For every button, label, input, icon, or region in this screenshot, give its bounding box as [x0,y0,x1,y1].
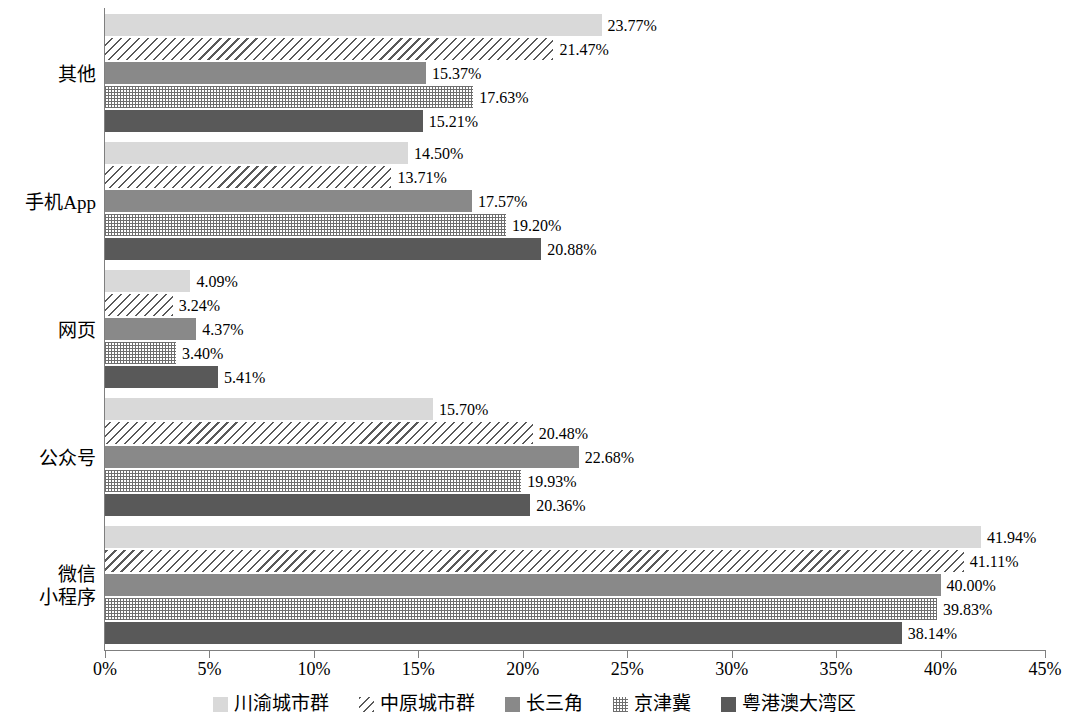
bar-value-label: 38.14% [908,623,957,644]
bar-row: 3.24% [105,294,1045,316]
x-axis-tick-label: 20% [483,657,563,681]
x-axis-tick-label: 0% [65,657,145,681]
bar-row: 23.77% [105,14,1045,36]
bar-row: 20.36% [105,494,1045,516]
bar-value-label: 5.41% [224,367,265,388]
bar-row: 38.14% [105,622,1045,644]
bar [105,318,196,340]
bar-row: 17.63% [105,86,1045,108]
bar-value-label: 20.48% [539,423,588,444]
x-axis-tick-label: 5% [169,657,249,681]
legend-item-label: 长三角 [526,693,583,715]
legend-swatch-icon [213,697,228,712]
bar [105,366,218,388]
bar-group: 14.50%13.71%17.57%19.20%20.88% [105,142,1045,262]
legend-item[interactable]: 京津冀 [613,693,691,715]
bar-value-label: 17.57% [478,191,527,212]
bar [105,190,472,212]
bar-value-label: 3.40% [182,343,223,364]
legend-swatch-icon [613,697,628,712]
bar-row: 41.94% [105,526,1045,548]
bar-group: 4.09%3.24%4.37%3.40%5.41% [105,270,1045,390]
bar-value-label: 40.00% [947,575,996,596]
bar-value-label: 20.36% [536,495,585,516]
x-axis-tick-label: 30% [692,657,772,681]
bar-row: 22.68% [105,446,1045,468]
x-axis-tick-label: 35% [796,657,876,681]
bar [105,110,423,132]
legend-item[interactable]: 长三角 [505,693,583,715]
bar [105,214,506,236]
bar-row: 4.09% [105,270,1045,292]
bar-row: 15.21% [105,110,1045,132]
legend-item-label: 中原城市群 [380,693,475,715]
bar-row: 20.48% [105,422,1045,444]
bar-value-label: 19.93% [527,471,576,492]
legend-item-label: 川渝城市群 [234,693,329,715]
legend-item[interactable]: 中原城市群 [359,693,475,715]
y-axis-category-label: 手机App [0,191,96,214]
bar-row: 40.00% [105,574,1045,596]
bar [105,14,602,36]
bar [105,574,941,596]
legend-item-label: 粤港澳大湾区 [742,693,856,715]
x-axis-tick-label: 10% [274,657,354,681]
bar [105,62,426,84]
y-axis-category-label: 其他 [0,63,96,86]
bar-value-label: 15.21% [429,111,478,132]
bar-row: 21.47% [105,38,1045,60]
bar-group: 41.94%41.11%40.00%39.83%38.14% [105,526,1045,646]
legend-swatch-icon [721,697,736,712]
grouped-bar-chart: 0%5%10%15%20%25%30%35%40%45% 其他手机App网页公众… [0,0,1068,722]
bar [105,86,473,108]
bar [105,598,937,620]
bar-group: 15.70%20.48%22.68%19.93%20.36% [105,398,1045,518]
bar-row: 14.50% [105,142,1045,164]
legend-swatch-icon [505,697,520,712]
bar-value-label: 15.70% [439,399,488,420]
bar-value-label: 14.50% [414,143,463,164]
x-axis-tick-label: 40% [901,657,981,681]
bar [105,494,530,516]
bar-value-label: 23.77% [608,15,657,36]
bars-plot-area: 23.77%21.47%15.37%17.63%15.21%14.50%13.7… [105,8,1045,650]
bar-value-label: 20.88% [547,239,596,260]
bar [105,550,964,572]
bar [105,622,902,644]
bar-value-label: 19.20% [512,215,561,236]
bar [105,342,176,364]
bar-row: 13.71% [105,166,1045,188]
chart-legend: 川渝城市群中原城市群长三角京津冀粤港澳大湾区 [0,686,1068,722]
legend-item[interactable]: 粤港澳大湾区 [721,693,856,715]
bar-row: 41.11% [105,550,1045,572]
bar-value-label: 13.71% [397,167,446,188]
bar [105,446,579,468]
bar [105,526,981,548]
bar-row: 39.83% [105,598,1045,620]
bar-row: 15.37% [105,62,1045,84]
bar-row: 3.40% [105,342,1045,364]
bar-value-label: 4.09% [196,271,237,292]
x-axis-tick-label: 25% [587,657,667,681]
bar-row: 19.93% [105,470,1045,492]
legend-item-label: 京津冀 [634,693,691,715]
bar-group: 23.77%21.47%15.37%17.63%15.21% [105,14,1045,134]
y-axis-category-label: 微信 小程序 [0,563,96,609]
bar [105,398,433,420]
bar-value-label: 3.24% [179,295,220,316]
bar [105,294,173,316]
bar-value-label: 15.37% [432,63,481,84]
legend-swatch-icon [359,697,374,712]
y-axis-category-label: 公众号 [0,447,96,470]
bar-row: 19.20% [105,214,1045,236]
bar [105,238,541,260]
bar-value-label: 41.94% [987,527,1036,548]
bar [105,422,533,444]
y-axis-category-label: 网页 [0,319,96,342]
legend-item[interactable]: 川渝城市群 [213,693,329,715]
bar [105,470,521,492]
bar-value-label: 17.63% [479,87,528,108]
bar [105,270,190,292]
bar-row: 20.88% [105,238,1045,260]
bar [105,38,553,60]
